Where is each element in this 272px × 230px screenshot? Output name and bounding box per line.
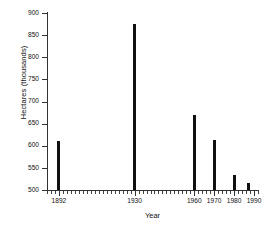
x-axis-minor-tick (75, 191, 76, 194)
y-axis-tick (42, 146, 47, 147)
x-axis-minor-tick (178, 191, 179, 194)
bar (193, 115, 196, 190)
y-axis-tick (42, 79, 47, 80)
x-axis-minor-tick (119, 191, 120, 194)
x-axis-minor-tick (222, 191, 223, 194)
x-axis-minor-tick (170, 191, 171, 194)
x-axis-minor-tick (115, 191, 116, 194)
x-axis-tick (214, 191, 215, 196)
x-axis-minor-tick (198, 191, 199, 194)
x-axis-minor-tick (79, 191, 80, 194)
x-axis-minor-tick (47, 191, 48, 194)
x-axis-minor-tick (230, 191, 231, 194)
x-axis-minor-tick (103, 191, 104, 194)
x-axis-minor-tick (158, 191, 159, 194)
bar-chart-figure: Hectares (thousands) Year 50055060065070… (0, 0, 272, 230)
y-axis-tick (42, 124, 47, 125)
x-axis-minor-tick (63, 191, 64, 194)
x-axis-minor-tick (226, 191, 227, 194)
bar (233, 175, 236, 190)
x-axis-minor-tick (210, 191, 211, 194)
x-axis-minor-tick (190, 191, 191, 194)
x-axis-minor-tick (246, 191, 247, 194)
x-axis-minor-tick (127, 191, 128, 194)
x-axis-tick-label: 1930 (120, 197, 150, 204)
y-axis-tick (42, 57, 47, 58)
x-axis-minor-tick (166, 191, 167, 194)
x-axis-tick (254, 191, 255, 196)
x-axis-minor-tick (139, 191, 140, 194)
x-axis-tick-label: 1892 (44, 197, 74, 204)
x-axis-minor-tick (99, 191, 100, 194)
x-axis-minor-tick (143, 191, 144, 194)
x-axis-minor-tick (202, 191, 203, 194)
x-axis-minor-tick (242, 191, 243, 194)
y-axis-tick-label: 500 (15, 187, 39, 194)
x-axis-minor-tick (206, 191, 207, 194)
x-axis-minor-tick (87, 191, 88, 194)
x-axis-minor-tick (111, 191, 112, 194)
x-axis-minor-tick (258, 191, 259, 194)
x-axis-tick (135, 191, 136, 196)
x-axis-minor-tick (123, 191, 124, 194)
x-axis-minor-tick (147, 191, 148, 194)
y-axis-tick-label: 800 (15, 54, 39, 61)
x-axis-minor-tick (250, 191, 251, 194)
x-axis-minor-tick (218, 191, 219, 194)
y-axis-tick-label: 600 (15, 142, 39, 149)
x-axis-tick (194, 191, 195, 196)
y-axis-tick (42, 102, 47, 103)
bar (213, 140, 216, 190)
x-axis-minor-tick (107, 191, 108, 194)
bar (133, 24, 136, 190)
x-axis-minor-tick (154, 191, 155, 194)
y-axis-tick-label: 700 (15, 98, 39, 105)
y-axis-tick (42, 168, 47, 169)
x-axis-minor-tick (83, 191, 84, 194)
y-axis-tick (42, 35, 47, 36)
x-axis-tick (59, 191, 60, 196)
x-axis-minor-tick (95, 191, 96, 194)
x-axis-minor-tick (91, 191, 92, 194)
y-axis-tick-label: 850 (15, 32, 39, 39)
x-axis-minor-tick (55, 191, 56, 194)
x-axis-tick-label: 1990 (239, 197, 269, 204)
x-axis-minor-tick (186, 191, 187, 194)
x-axis-title: Year (47, 211, 258, 220)
x-axis-minor-tick (174, 191, 175, 194)
y-axis-line (47, 12, 48, 191)
y-axis-tick-label: 650 (15, 120, 39, 127)
x-axis-minor-tick (71, 191, 72, 194)
x-axis-minor-tick (151, 191, 152, 194)
x-axis-minor-tick (238, 191, 239, 194)
x-axis-tick (234, 191, 235, 196)
x-axis-minor-tick (67, 191, 68, 194)
x-axis-minor-tick (51, 191, 52, 194)
x-axis-minor-tick (162, 191, 163, 194)
x-axis-minor-tick (182, 191, 183, 194)
y-axis-tick-label: 900 (15, 10, 39, 17)
y-axis-tick-label: 750 (15, 76, 39, 83)
bar (57, 141, 60, 190)
x-axis-minor-tick (131, 191, 132, 194)
y-axis-tick-label: 550 (15, 165, 39, 172)
y-axis-tick (42, 13, 47, 14)
bar (247, 183, 250, 190)
